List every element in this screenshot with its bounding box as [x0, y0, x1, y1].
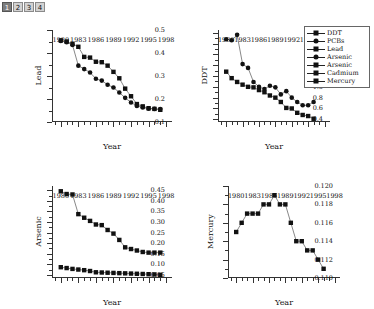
- legend-marker-icon: [307, 45, 325, 53]
- series-layer-arsenic: [52, 186, 172, 278]
- series-lead-0: [59, 38, 163, 112]
- data-point: [82, 216, 86, 220]
- x-tick-arsenic-1984: [84, 278, 85, 281]
- data-point: [135, 272, 139, 276]
- data-point: [82, 55, 86, 59]
- data-point: [58, 39, 63, 44]
- plot-area-lead: 19801983198619891992199519980.10.20.30.4…: [52, 30, 172, 122]
- x-tick-mercury-1984: [258, 278, 259, 281]
- tab-strip[interactable]: 1234: [2, 2, 45, 12]
- tab-4[interactable]: 4: [35, 2, 45, 12]
- data-point: [152, 107, 157, 112]
- data-point: [117, 271, 121, 275]
- data-point: [111, 70, 115, 74]
- x-tick-lead-1980: [61, 122, 62, 127]
- data-point: [129, 247, 133, 251]
- data-point: [224, 69, 228, 73]
- data-point: [146, 250, 150, 254]
- x-tick-mercury-1985: [264, 278, 265, 281]
- x-tick-lead-1998: [166, 122, 167, 127]
- legend-label: Arsenic: [325, 53, 352, 61]
- x-tick-arsenic-1979: [55, 278, 56, 281]
- legend-marker-icon: [307, 61, 325, 69]
- legend-item-arsenic-3: Arsenic: [307, 53, 366, 61]
- data-point: [70, 43, 75, 48]
- x-tick-ddt-1982: [237, 122, 238, 125]
- series-mercury-0: [234, 193, 326, 271]
- series-layer-mercury: [228, 186, 340, 278]
- x-tick-ddt-1986: [259, 122, 260, 127]
- x-tick-ddt-1990: [281, 122, 282, 125]
- series-layer-lead: [52, 30, 172, 122]
- data-point: [251, 80, 256, 85]
- legend-marker-icon: [307, 69, 325, 77]
- data-point: [70, 192, 74, 196]
- data-point: [141, 272, 145, 276]
- chart-legend: DDTPCBsLeadArsenicArsenicCadmiumMercury: [304, 26, 370, 88]
- data-point: [268, 83, 273, 88]
- x-tick-mercury-1982: [247, 278, 248, 281]
- tab-3[interactable]: 3: [24, 2, 34, 12]
- tab-1[interactable]: 1: [2, 2, 12, 12]
- x-tick-arsenic-1986: [96, 278, 97, 283]
- data-point: [82, 67, 87, 72]
- x-tick-lead-1984: [84, 122, 85, 125]
- data-point: [239, 221, 243, 225]
- x-tick-ddt-1984: [248, 122, 249, 125]
- data-point: [146, 106, 151, 111]
- x-tick-mercury-1988: [280, 278, 281, 281]
- x-tick-arsenic-1988: [108, 278, 109, 281]
- x-tick-mercury-1998: [335, 278, 336, 283]
- data-point: [158, 273, 162, 277]
- x-tick-arsenic-1982: [72, 278, 73, 281]
- data-point: [70, 267, 74, 271]
- legend-label: Mercury: [325, 77, 355, 85]
- data-point: [100, 60, 104, 64]
- series-lead-1: [58, 39, 162, 112]
- data-point: [294, 239, 298, 243]
- x-tick-lead-1981: [67, 122, 68, 125]
- data-point: [246, 85, 250, 89]
- x-tick-arsenic-1992: [131, 278, 132, 283]
- x-tick-ddt-1995: [308, 122, 309, 127]
- data-point: [88, 55, 92, 59]
- y-tick-lead-0: [47, 122, 52, 123]
- data-point: [300, 103, 305, 108]
- data-point: [273, 95, 277, 99]
- x-tick-arsenic-1987: [102, 278, 103, 281]
- data-point: [290, 106, 294, 110]
- data-point: [135, 248, 139, 252]
- legend-marker-icon: [307, 53, 325, 61]
- x-tick-mercury-1980: [236, 278, 237, 283]
- data-point: [59, 189, 63, 193]
- x-tick-ddt-1985: [254, 122, 255, 125]
- data-point: [88, 219, 92, 223]
- data-point: [59, 265, 63, 269]
- x-tick-arsenic-1989: [113, 278, 114, 283]
- legend-label: Cadmium: [325, 69, 359, 77]
- data-point: [117, 76, 121, 80]
- legend-label: PCBs: [325, 37, 344, 45]
- legend-item-ddt-0: DDT: [307, 29, 366, 37]
- data-point: [117, 238, 121, 242]
- legend-label: DDT: [325, 29, 342, 37]
- data-point: [278, 202, 282, 206]
- data-point: [129, 100, 134, 105]
- x-tick-ddt-1979: [221, 122, 222, 125]
- x-tick-lead-1982: [72, 122, 73, 125]
- x-tick-mercury-1989: [285, 278, 286, 283]
- x-tick-lead-1983: [78, 122, 79, 127]
- data-point: [135, 104, 140, 109]
- legend-item-mercury-6: Mercury: [307, 77, 366, 85]
- data-point: [94, 222, 98, 226]
- data-point: [82, 268, 86, 272]
- legend-item-pcbs-1: PCBs: [307, 37, 366, 45]
- tab-2[interactable]: 2: [13, 2, 23, 12]
- data-point: [76, 267, 80, 271]
- figure-grid: 19801983198619891992199519980.10.20.30.4…: [0, 16, 374, 309]
- data-point: [295, 111, 299, 115]
- plot-area-arsenic: 19801983198619891992199519980.050.100.15…: [52, 186, 172, 278]
- x-tick-lead-1989: [113, 122, 114, 127]
- data-point: [246, 66, 251, 71]
- data-point: [235, 33, 240, 38]
